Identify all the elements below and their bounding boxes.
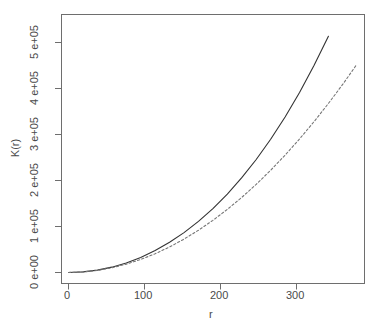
- y-axis-ticks: [55, 43, 62, 273]
- series-k-empirical: [69, 36, 329, 272]
- plot-canvas: [0, 0, 378, 331]
- k-function-plot: K(r) 0 e+00 1 e+05 2 e+05 3 e+05 4 e+05 …: [0, 0, 378, 331]
- x-axis-ticks: [69, 284, 297, 290]
- series-k-theoretical: [69, 65, 357, 273]
